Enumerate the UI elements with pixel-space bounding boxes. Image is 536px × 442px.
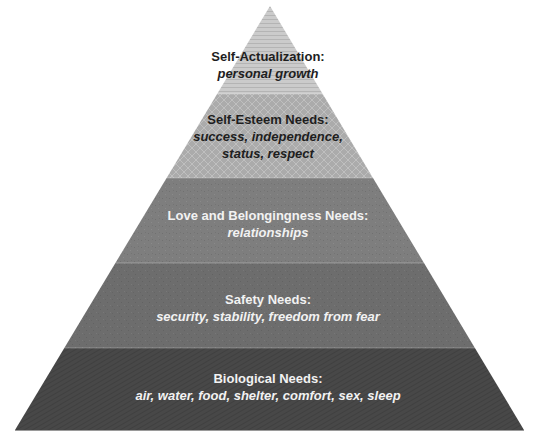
level-biological: Biological Needs: air, water, food, shel… xyxy=(0,370,536,404)
level-self-actualization: Self-Actualization: personal growth xyxy=(0,48,536,82)
level-title: Self-Actualization: xyxy=(0,48,536,65)
level-description: success, independence, xyxy=(0,128,536,145)
level-description: relationships xyxy=(0,224,536,241)
level-title: Self-Esteem Needs: xyxy=(0,111,536,128)
level-love-belonging: Love and Belongingness Needs: relationsh… xyxy=(0,207,536,241)
level-description: air, water, food, shelter, comfort, sex,… xyxy=(0,387,536,404)
level-safety: Safety Needs: security, stability, freed… xyxy=(0,291,536,325)
level-title: Biological Needs: xyxy=(0,370,536,387)
level-description: security, stability, freedom from fear xyxy=(0,308,536,325)
level-title: Safety Needs: xyxy=(0,291,536,308)
maslow-pyramid: Self-Actualization: personal growth Self… xyxy=(0,0,536,442)
level-self-esteem: Self-Esteem Needs: success, independence… xyxy=(0,111,536,162)
level-title: Love and Belongingness Needs: xyxy=(0,207,536,224)
level-description: personal growth xyxy=(0,65,536,82)
level-description: status, respect xyxy=(0,145,536,162)
